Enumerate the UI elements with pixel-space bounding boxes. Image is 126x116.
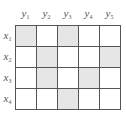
cell-x3-y5 [100, 68, 121, 89]
column-label-y1: y1 [15, 6, 36, 24]
cell-x3-y3 [58, 68, 79, 89]
cell-x4-y1 [16, 89, 37, 110]
column-label-y5: y5 [99, 6, 120, 24]
cell-x4-y3 [58, 89, 79, 110]
row-label-x4: x4 [1, 91, 14, 109]
column-label-y4: y4 [78, 6, 99, 24]
cell-x2-y5 [100, 47, 121, 68]
column-label-y2: y2 [36, 6, 57, 24]
row-label-x2: x2 [1, 49, 14, 67]
cell-x4-y2 [37, 89, 58, 110]
cell-x2-y4 [79, 47, 100, 68]
cell-x1-y2 [37, 26, 58, 47]
cell-x1-y3 [58, 26, 79, 47]
cell-x4-y4 [79, 89, 100, 110]
cell-x1-y4 [79, 26, 100, 47]
cell-x2-y3 [58, 47, 79, 68]
row-label-x1: x1 [1, 28, 14, 46]
cell-x4-y5 [100, 89, 121, 110]
cell-x3-y4 [79, 68, 100, 89]
cell-x3-y2 [37, 68, 58, 89]
cell-x1-y5 [100, 26, 121, 47]
cell-x3-y1 [16, 68, 37, 89]
matrix-grid [15, 25, 121, 110]
column-label-y3: y3 [57, 6, 78, 24]
cell-x2-y1 [16, 47, 37, 68]
cell-x1-y1 [16, 26, 37, 47]
row-label-x3: x3 [1, 70, 14, 88]
cell-x2-y2 [37, 47, 58, 68]
